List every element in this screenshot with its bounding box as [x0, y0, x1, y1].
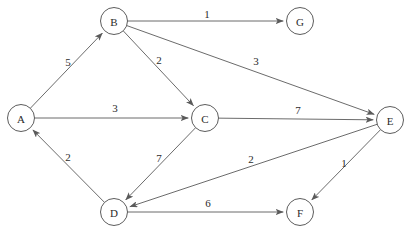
node-f[interactable]: F: [287, 199, 314, 226]
node-c[interactable]: C: [192, 105, 219, 132]
node-b[interactable]: B: [101, 8, 128, 35]
nodes-layer: ABCDEFG: [8, 8, 404, 226]
edge-weight-d-f: 6: [205, 197, 211, 209]
node-label-b: B: [110, 16, 117, 28]
edge-e-to-d: [130, 124, 377, 206]
edge-weight-a-b: 5: [65, 56, 71, 68]
edge-a-to-b: [30, 33, 102, 108]
edge-weight-b-g: 1: [204, 8, 210, 20]
graph-diagram-canvas: ABCDEFG 51233772216: [0, 0, 414, 235]
edge-b-to-c: [123, 31, 193, 106]
node-a[interactable]: A: [8, 105, 35, 132]
edge-c-to-e: [219, 118, 374, 120]
graph-svg: ABCDEFG 51233772216: [0, 0, 414, 235]
node-label-a: A: [17, 113, 25, 125]
node-e[interactable]: E: [377, 107, 404, 134]
node-label-g: G: [296, 16, 304, 28]
edge-weight-e-d: 2: [248, 153, 254, 165]
edge-weight-b-e: 3: [253, 55, 259, 67]
edge-d-to-a: [33, 130, 105, 203]
edge-weight-c-d: 7: [156, 152, 162, 164]
edge-b-to-e: [127, 26, 375, 115]
node-g[interactable]: G: [287, 8, 314, 35]
node-label-e: E: [387, 115, 394, 127]
edge-weight-b-c: 2: [156, 54, 162, 66]
node-label-c: C: [201, 113, 208, 125]
node-label-f: F: [297, 207, 303, 219]
node-d[interactable]: D: [101, 199, 128, 226]
node-label-d: D: [110, 207, 118, 219]
edge-weight-e-f: 1: [341, 157, 347, 169]
edge-weight-a-c: 3: [112, 102, 118, 114]
edge-weight-d-a: 2: [65, 151, 71, 163]
edge-weight-c-e: 7: [295, 104, 301, 116]
